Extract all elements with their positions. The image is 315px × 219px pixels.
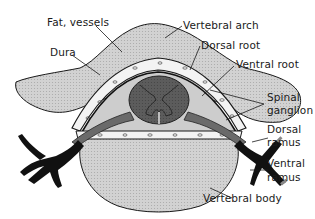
- label-vertebral-arch: Vertebral arch: [183, 20, 259, 31]
- label-ventral-root: Ventral root: [236, 59, 299, 70]
- posterior-fat-band: [76, 131, 242, 139]
- leader-dorsal-ramus: [252, 138, 268, 142]
- label-ventral-ramus-line1: Ventral: [267, 158, 305, 169]
- left-dorsal-ramus: [18, 134, 46, 160]
- label-spinal-ganglion-line2: ganglion: [267, 105, 313, 116]
- label-ventral-ramus-line2: ramus: [267, 172, 301, 183]
- label-dorsal-ramus-line1: Dorsal: [267, 124, 301, 135]
- label-dorsal-ramus-line2: ramus: [267, 137, 301, 148]
- label-fat-vessels: Fat, vessels: [47, 17, 109, 28]
- label-vertebral-body: Vertebral body: [203, 193, 282, 204]
- label-dura: Dura: [50, 47, 76, 58]
- label-spinal-ganglion-line1: Spinal: [267, 92, 300, 103]
- label-dorsal-root: Dorsal root: [201, 40, 260, 51]
